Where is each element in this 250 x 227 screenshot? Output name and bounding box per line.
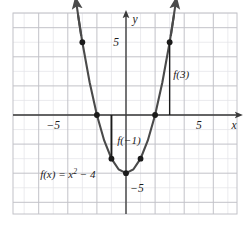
data-point bbox=[138, 156, 144, 162]
function-equation-label: f(x) = x2 − 4 bbox=[40, 167, 96, 182]
data-point bbox=[123, 170, 129, 176]
x-tick-label-positive-5: 5 bbox=[196, 119, 202, 131]
data-point bbox=[167, 39, 173, 45]
x-axis-label: x bbox=[230, 119, 237, 131]
graph-canvas: −5 5 5 −5 x y f(−1) f(3) f(x) = x2 − 4 bbox=[0, 0, 250, 227]
f-of-negative-one-label: f(−1) bbox=[117, 134, 141, 147]
graph-figure: −5 5 5 −5 x y f(−1) f(3) f(x) = x2 − 4 bbox=[0, 0, 250, 227]
y-axis-label: y bbox=[131, 13, 138, 26]
data-point bbox=[94, 112, 100, 118]
y-tick-label-negative-5: −5 bbox=[130, 182, 144, 194]
y-tick-label-positive-5: 5 bbox=[113, 36, 119, 48]
f-of-three-label: f(3) bbox=[173, 68, 189, 81]
x-tick-label-negative-5: −5 bbox=[46, 119, 60, 131]
data-point bbox=[152, 112, 158, 118]
data-point bbox=[109, 156, 115, 162]
figure-background bbox=[0, 0, 250, 227]
coordinate-plane-svg: −5 5 5 −5 x y f(−1) f(3) f(x) = x2 − 4 bbox=[0, 0, 250, 227]
data-point bbox=[79, 39, 85, 45]
